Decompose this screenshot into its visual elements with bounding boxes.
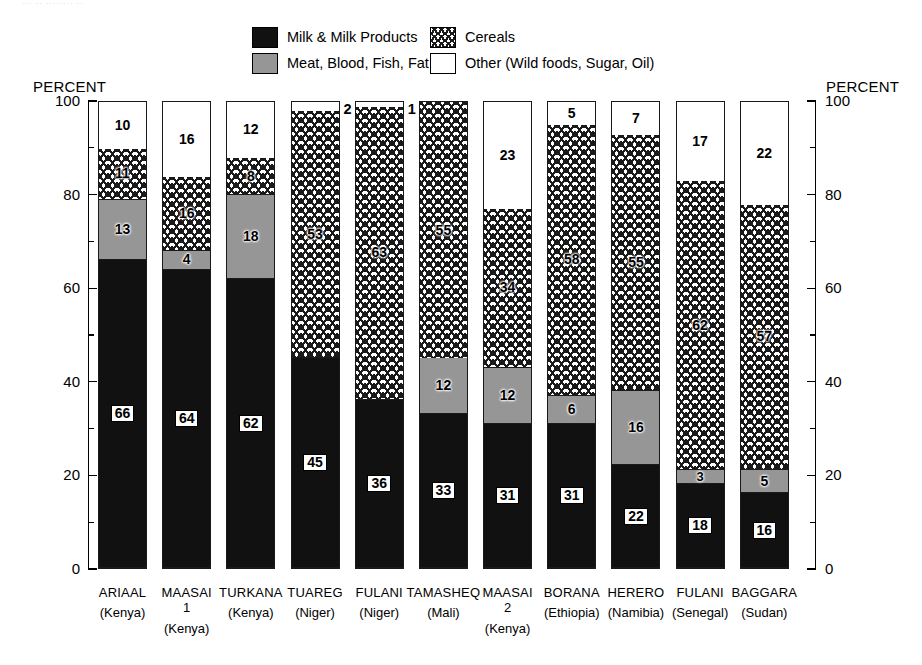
bar-segment-milk[interactable]: 16	[741, 493, 788, 568]
bar-value-label: 57	[757, 329, 773, 344]
chart-legend: Milk & Milk Products Cereals Meat, Blood…	[252, 24, 682, 82]
bar-value-label: 12	[436, 378, 452, 393]
stacked-bar[interactable]: 25345	[291, 101, 340, 569]
bar-segment-cereal[interactable]: 57	[741, 205, 788, 471]
bar-value-label: 36	[367, 475, 391, 492]
bar-value-label: 18	[243, 229, 259, 244]
y-tick-label-right: 0	[825, 560, 865, 577]
bar-segment-cereal[interactable]: 63	[356, 107, 403, 401]
bar-segment-cereal[interactable]: 16	[163, 177, 210, 252]
bar-segment-meat[interactable]: 16	[612, 391, 659, 466]
bar-segment-meat[interactable]: 3	[677, 470, 724, 484]
legend-label-milk: Milk & Milk Products	[287, 29, 418, 45]
bar-value-label: 10	[115, 118, 131, 133]
bar-value-label: 66	[111, 405, 135, 422]
bar-segment-other[interactable]: 16	[163, 102, 210, 177]
legend-row: Milk & Milk Products Cereals	[252, 24, 682, 50]
bar-value-label: 34	[500, 280, 516, 295]
bar-value-label: 12	[500, 388, 516, 403]
bar-segment-other[interactable]: 23	[484, 102, 531, 209]
bar-segment-meat[interactable]: 4	[163, 251, 210, 270]
bar-value-label: 31	[496, 487, 520, 504]
other-swatch	[430, 53, 456, 74]
bar-value-label: 6	[568, 402, 576, 417]
bar-segment-cereal[interactable]: 62	[677, 181, 724, 470]
bar-segment-milk[interactable]: 64	[163, 270, 210, 568]
stacked-bar[interactable]: 551233	[419, 101, 468, 569]
stacked-bar[interactable]: 558631	[547, 101, 596, 569]
bar-segment-meat[interactable]: 13	[99, 200, 146, 261]
bar-value-label: 64	[175, 410, 199, 427]
bar-segment-meat[interactable]: 12	[420, 358, 467, 414]
bar-segment-milk[interactable]: 31	[484, 424, 531, 568]
bar-segment-other[interactable]: 10	[99, 102, 146, 149]
bar-segment-meat[interactable]: 6	[548, 396, 595, 424]
bar-segment-milk[interactable]: 45	[292, 358, 339, 568]
bar-segment-milk[interactable]: 66	[99, 260, 146, 568]
bar-segment-cereal[interactable]: 53	[292, 111, 339, 358]
bar-segment-meat[interactable]: 18	[227, 195, 274, 279]
legend-row: Meat, Blood, Fish, Fat Other (Wild foods…	[252, 50, 682, 76]
bar-segment-milk[interactable]: 22	[612, 465, 659, 568]
bar-segment-milk[interactable]: 36	[356, 400, 403, 568]
bar-value-label: 3	[697, 469, 704, 484]
bar-value-label: 16	[179, 132, 195, 147]
y-tick-left-major	[88, 381, 97, 382]
bar-segment-milk[interactable]: 31	[548, 424, 595, 568]
stacked-bar[interactable]: 1281862	[226, 101, 275, 569]
bar-value-label: 33	[432, 482, 456, 499]
stacked-bar[interactable]: 2257516	[740, 101, 789, 569]
y-tick-label-left: 40	[40, 373, 80, 390]
bar-value-label: 16	[753, 522, 777, 539]
bar-segment-meat[interactable]: 5	[741, 470, 788, 493]
x-axis-label-name: BAGGARA	[721, 585, 807, 600]
bar-segment-cereal[interactable]: 58	[548, 125, 595, 395]
legend-label-meat: Meat, Blood, Fish, Fat	[287, 55, 429, 71]
y-tick-right-major	[807, 194, 816, 195]
bar-segment-other[interactable]: 12	[227, 102, 274, 158]
bar-segment-cereal[interactable]: 8	[227, 158, 274, 195]
chart-plot-area: 1011136616164641281862253451633655123323…	[98, 101, 804, 569]
bar-segment-cereal[interactable]: 11	[99, 149, 146, 200]
x-axis-label-country: (Sudan)	[721, 605, 807, 620]
stacked-bar[interactable]: 1762318	[676, 101, 725, 569]
stacked-bar[interactable]: 1616464	[162, 101, 211, 569]
bar-value-label: 17	[692, 134, 708, 149]
y-tick-label-right: 20	[825, 466, 865, 483]
legend-label-cereals: Cereals	[465, 29, 515, 45]
y-tick-left-minor	[88, 334, 94, 335]
bar-segment-cereal[interactable]: 55	[612, 135, 659, 391]
bar-segment-other[interactable]: 2	[292, 102, 339, 111]
y-tick-label-left: 100	[40, 92, 80, 109]
bar-segment-other[interactable]: 7	[612, 102, 659, 135]
y-tick-right-major	[807, 381, 816, 382]
bar-segment-meat[interactable]: 12	[484, 368, 531, 424]
legend-item-other: Other (Wild foods, Sugar, Oil)	[430, 53, 654, 74]
bar-segment-milk[interactable]: 18	[677, 484, 724, 568]
bar-segment-other[interactable]: 17	[677, 102, 724, 181]
stacked-bar[interactable]: 10111366	[98, 101, 147, 569]
bar-value-label: 5	[760, 474, 768, 489]
y-tick-label-right: 40	[825, 373, 865, 390]
y-tick-label-left: 80	[40, 186, 80, 203]
bar-value-label: 16	[179, 206, 195, 221]
bar-segment-cereal[interactable]: 34	[484, 209, 531, 367]
y-tick-left-minor	[88, 428, 94, 429]
bar-segment-other[interactable]: 5	[548, 102, 595, 125]
stacked-bar[interactable]: 23341231	[483, 101, 532, 569]
bar-value-label: 45	[303, 454, 327, 471]
y-tick-label-left: 0	[40, 560, 80, 577]
bar-value-label: 7	[632, 111, 640, 126]
y-tick-right-minor	[810, 334, 816, 335]
stacked-bar[interactable]: 16336	[355, 101, 404, 569]
bar-segment-milk[interactable]: 62	[227, 279, 274, 568]
y-tick-label-right: 60	[825, 279, 865, 296]
y-tick-right-minor	[810, 428, 816, 429]
bar-segment-cereal[interactable]: 55	[420, 102, 467, 358]
meat-swatch	[252, 53, 278, 74]
bar-segment-milk[interactable]: 33	[420, 414, 467, 568]
bar-value-label: 55	[628, 255, 644, 270]
stacked-bar[interactable]: 7551622	[611, 101, 660, 569]
y-tick-right-major	[807, 100, 816, 101]
bar-segment-other[interactable]: 22	[741, 102, 788, 205]
